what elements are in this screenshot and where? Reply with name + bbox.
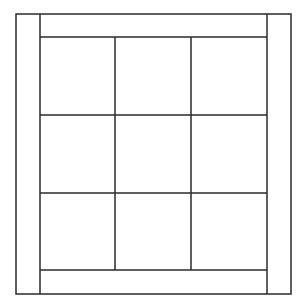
grid-diagram: [0, 0, 301, 305]
outer-frame: [16, 14, 291, 294]
